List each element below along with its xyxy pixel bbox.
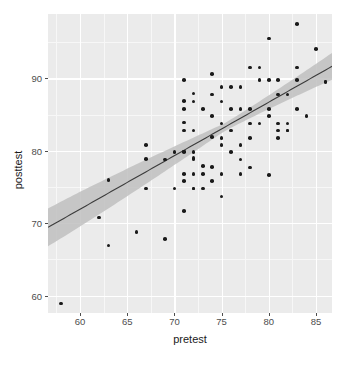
data-point xyxy=(220,122,224,126)
data-point xyxy=(267,114,271,118)
data-point xyxy=(295,107,299,111)
scatterplot-figure: 60657075808560708090 pretest posttest xyxy=(0,0,352,365)
data-point xyxy=(305,114,309,118)
plot-panel xyxy=(48,14,332,313)
data-point xyxy=(182,99,186,103)
data-point xyxy=(286,93,290,97)
data-point xyxy=(239,107,243,111)
data-point xyxy=(229,129,233,133)
data-point xyxy=(182,121,186,125)
data-point xyxy=(276,122,280,126)
data-point xyxy=(182,172,186,176)
data-point xyxy=(229,107,233,111)
data-point xyxy=(201,187,205,191)
data-point xyxy=(286,129,290,133)
data-point xyxy=(182,179,186,183)
data-point xyxy=(239,143,243,147)
data-point xyxy=(201,172,205,176)
data-point xyxy=(276,129,280,133)
data-point xyxy=(248,107,252,111)
data-point xyxy=(248,136,252,140)
data-point xyxy=(192,172,196,176)
x-axis-tick-label: 70 xyxy=(169,316,180,327)
data-point xyxy=(210,135,214,139)
data-point xyxy=(295,78,299,82)
data-point xyxy=(135,230,139,234)
data-point xyxy=(59,302,63,306)
data-point xyxy=(182,150,186,154)
data-point xyxy=(163,237,167,241)
y-axis-label: posttest xyxy=(12,100,24,240)
y-axis-tick-label: 90 xyxy=(20,73,42,84)
data-point xyxy=(173,187,177,191)
data-point xyxy=(192,129,196,133)
x-axis-tick-label: 75 xyxy=(216,316,227,327)
data-point xyxy=(144,143,148,147)
data-point xyxy=(144,187,148,191)
data-point xyxy=(220,195,224,199)
data-point xyxy=(220,100,224,104)
data-point xyxy=(210,165,214,169)
data-point xyxy=(107,178,111,182)
data-point xyxy=(210,72,214,76)
y-axis-tick-mark xyxy=(45,223,48,224)
y-axis-tick-mark xyxy=(45,78,48,79)
data-point xyxy=(239,172,243,176)
data-point xyxy=(258,122,262,126)
data-point xyxy=(97,216,101,220)
data-point xyxy=(267,37,271,41)
x-axis-tick-label: 80 xyxy=(263,316,274,327)
data-point xyxy=(173,150,177,154)
data-point xyxy=(248,166,252,170)
data-point xyxy=(267,107,271,111)
data-points-layer xyxy=(48,14,332,313)
data-point xyxy=(182,209,186,213)
x-axis-tick-label: 85 xyxy=(311,316,322,327)
data-point xyxy=(258,66,262,70)
data-point xyxy=(276,78,280,82)
data-point xyxy=(201,107,205,111)
data-point xyxy=(267,173,271,177)
data-point xyxy=(210,114,214,118)
y-axis-tick-mark xyxy=(45,151,48,152)
x-axis-tick-label: 65 xyxy=(122,316,133,327)
data-point xyxy=(182,107,186,111)
data-point xyxy=(314,47,318,51)
data-point xyxy=(248,66,252,70)
data-point xyxy=(201,164,205,168)
data-point xyxy=(163,158,167,162)
data-point xyxy=(192,187,196,191)
x-axis-tick-label: 60 xyxy=(75,316,86,327)
data-point xyxy=(182,129,186,133)
data-point xyxy=(239,158,243,162)
data-point xyxy=(324,80,328,84)
data-point xyxy=(220,85,224,89)
data-point xyxy=(295,22,299,26)
data-point xyxy=(144,157,148,161)
x-axis-label: pretest xyxy=(48,333,332,345)
data-point xyxy=(276,136,280,140)
data-point xyxy=(276,93,280,97)
data-point xyxy=(220,136,224,140)
data-point xyxy=(192,100,196,104)
data-point xyxy=(248,122,252,126)
data-point xyxy=(258,78,262,82)
data-point xyxy=(229,85,233,89)
data-point xyxy=(220,172,224,176)
data-point xyxy=(220,143,224,147)
data-point xyxy=(182,78,186,82)
y-axis-tick-mark xyxy=(45,296,48,297)
data-point xyxy=(192,92,196,96)
data-point xyxy=(210,93,214,97)
data-point xyxy=(286,122,290,126)
data-point xyxy=(192,158,196,162)
data-point xyxy=(295,66,299,70)
data-point xyxy=(239,85,243,89)
data-point xyxy=(267,78,271,82)
data-point xyxy=(229,150,233,154)
data-point xyxy=(192,150,196,154)
y-axis-tick-label: 60 xyxy=(20,290,42,301)
data-point xyxy=(210,179,214,183)
data-point xyxy=(107,244,111,248)
